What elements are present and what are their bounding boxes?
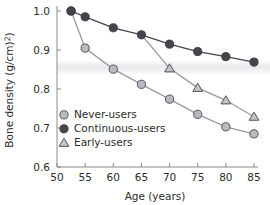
data-point-marker — [60, 111, 68, 119]
legend-item-continuous-users[interactable]: Continuous-users — [60, 122, 166, 134]
y-tick-label: 1.0 — [33, 5, 50, 17]
legend-label: Never-users — [74, 108, 137, 120]
data-point-marker — [250, 58, 258, 66]
data-point-marker — [250, 130, 258, 138]
x-tick-label: 85 — [247, 171, 260, 183]
data-point-marker — [81, 44, 89, 52]
x-tick-label: 75 — [191, 171, 204, 183]
data-point-marker — [81, 13, 89, 21]
data-point-marker — [222, 123, 230, 131]
x-axis-title: Age (years) — [125, 190, 186, 202]
data-point-marker — [221, 96, 231, 104]
y-tick-label: 0.9 — [33, 44, 50, 56]
data-point-marker — [249, 112, 259, 120]
x-tick-label: 70 — [163, 171, 176, 183]
reference-band — [57, 61, 270, 74]
data-point-marker — [59, 138, 69, 146]
bone-density-chart: 0.60.70.80.91.0 5055606570758085 Never-u… — [0, 0, 270, 205]
x-tick-label: 60 — [107, 171, 120, 183]
data-point-marker — [194, 110, 202, 118]
data-point-marker — [165, 40, 173, 48]
x-tick-label: 65 — [135, 171, 148, 183]
data-point-marker — [222, 53, 230, 61]
y-tick-label: 0.7 — [33, 122, 50, 134]
chart-legend: Never-usersContinuous-usersEarly-users — [59, 108, 165, 148]
x-tick-label: 50 — [50, 171, 63, 183]
y-tick-label: 0.8 — [33, 83, 50, 95]
data-point-marker — [193, 83, 203, 91]
x-tick-label: 55 — [78, 171, 91, 183]
legend-label: Continuous-users — [74, 122, 165, 134]
y-axis-title: Bone density (g/cm)2) — [3, 32, 15, 147]
data-point-marker — [109, 65, 117, 73]
data-point-marker — [137, 31, 145, 39]
legend-item-early-users[interactable]: Early-users — [59, 136, 132, 148]
data-point-marker — [67, 7, 75, 15]
y-tick-labels: 0.60.70.80.91.0 — [33, 5, 50, 173]
legend-label: Early-users — [74, 136, 133, 148]
x-tick-labels: 5055606570758085 — [50, 171, 260, 183]
legend-item-never-users[interactable]: Never-users — [60, 108, 137, 120]
data-point-marker — [165, 95, 173, 103]
chart-canvas: 0.60.70.80.91.0 5055606570758085 Never-u… — [0, 0, 270, 205]
data-point-marker — [194, 47, 202, 55]
y-tick-label: 0.6 — [33, 161, 50, 173]
data-point-marker — [60, 125, 68, 133]
series-early-users — [141, 35, 258, 120]
x-tick-label: 80 — [219, 171, 232, 183]
data-point-marker — [137, 80, 145, 88]
data-point-marker — [109, 24, 117, 32]
series-continuous-users — [67, 7, 258, 66]
